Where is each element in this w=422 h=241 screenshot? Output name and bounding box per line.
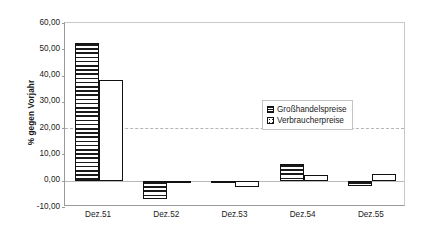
bar-group	[133, 23, 201, 205]
y-axis-tick-mark	[62, 207, 65, 208]
bar	[211, 181, 235, 183]
legend-item[interactable]: Verbraucherpreise	[267, 115, 347, 126]
x-axis-tick-label: Dez.51	[64, 210, 132, 220]
x-axis-tick-label: Dez.53	[200, 210, 268, 220]
legend-item-label: Verbraucherpreise	[277, 116, 344, 126]
y-axis-tick-label: 30,00	[16, 96, 60, 105]
y-axis-tick-label: 20,00	[16, 123, 60, 132]
bar	[372, 174, 396, 181]
legend-item-label: Großhandelspreise	[277, 105, 347, 115]
bar	[304, 175, 328, 180]
x-axis-tick-labels: Dez.51Dez.52Dez.53Dez.54Dez.55	[64, 210, 405, 226]
bar	[99, 80, 123, 181]
y-axis-tick-label: 60,00	[16, 18, 60, 27]
y-axis-tick-label: 50,00	[16, 44, 60, 53]
y-axis-tick-label: 40,00	[16, 70, 60, 79]
bar-group	[65, 23, 133, 205]
x-axis-tick-label: Dez.55	[337, 210, 405, 220]
bar	[143, 181, 167, 199]
x-axis-tick-label: Dez.54	[269, 210, 337, 220]
y-axis-tick-labels: 60,0050,0040,0030,0020,0010,000,00-10,00	[16, 22, 60, 206]
y-axis-tick-label: -10,00	[16, 202, 60, 211]
bar	[280, 164, 304, 181]
chart-legend: GroßhandelspreiseVerbraucherpreise	[262, 100, 353, 130]
bar	[75, 43, 99, 181]
legend-swatch-icon	[267, 117, 274, 124]
bar	[167, 181, 191, 183]
x-axis-tick-label: Dez.52	[132, 210, 200, 220]
bar-group	[201, 23, 269, 205]
bar	[348, 181, 372, 186]
bar-chart: % gegen Vorjahr 60,0050,0040,0030,0020,0…	[0, 0, 422, 241]
plot-area	[64, 22, 405, 206]
y-axis-tick-label: 0,00	[16, 175, 60, 184]
legend-swatch-icon	[267, 106, 274, 113]
y-axis-tick-label: 10,00	[16, 149, 60, 158]
bar	[235, 181, 259, 188]
legend-item[interactable]: Großhandelspreise	[267, 104, 347, 115]
